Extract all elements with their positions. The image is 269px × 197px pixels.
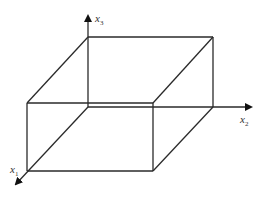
box (27, 37, 213, 171)
x2-label: x2 (239, 113, 249, 128)
box-diagram: x3 x2 x1 (0, 0, 269, 197)
x3-label: x3 (94, 12, 104, 27)
x1-label: x1 (9, 163, 19, 178)
